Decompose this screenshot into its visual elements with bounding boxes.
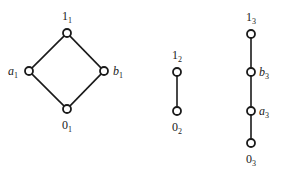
label-a_1: a1: [8, 64, 18, 80]
label-b_1: b1: [113, 64, 123, 80]
node-1_1: [63, 29, 71, 37]
label-0_1: 01: [62, 118, 72, 134]
node-a_3: [247, 107, 255, 115]
node-0_1: [63, 105, 71, 113]
label-0_2: 02: [172, 120, 182, 136]
label-1_2: 12: [172, 48, 182, 64]
nodes-layer: [25, 29, 255, 147]
node-a_1: [25, 67, 33, 75]
node-b_1: [100, 67, 108, 75]
edge-a_1-1_1: [32, 36, 64, 68]
label-a_3: a3: [259, 104, 269, 120]
node-1_2: [173, 68, 181, 76]
label-1_3: 13: [246, 10, 256, 26]
edge-0_1-b_1: [70, 74, 101, 106]
node-0_2: [173, 107, 181, 115]
label-1_1: 11: [62, 9, 72, 25]
lattice-diagram: 11a1b101120213b3a303: [0, 0, 283, 169]
node-1_3: [247, 30, 255, 38]
node-b_3: [247, 68, 255, 76]
edge-0_1-a_1: [32, 74, 64, 106]
node-0_3: [247, 139, 255, 147]
edge-b_1-1_1: [70, 36, 101, 68]
label-b_3: b3: [259, 65, 269, 81]
label-0_3: 03: [246, 152, 256, 168]
